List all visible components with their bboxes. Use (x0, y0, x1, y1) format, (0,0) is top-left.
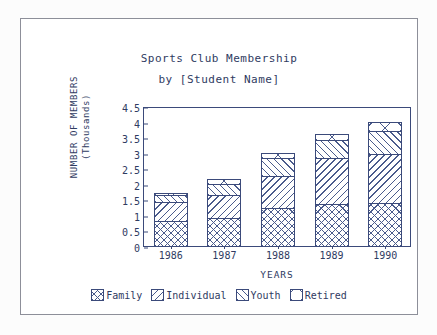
x-axis-tick-mark (332, 246, 333, 249)
x-axis-tick-mark (171, 246, 172, 249)
bar-segment-individual (368, 154, 402, 204)
bar-segment-family (368, 203, 402, 247)
bar-segment-family (154, 221, 188, 247)
x-axis-tick-label: 1987 (212, 250, 236, 261)
legend-item-individual[interactable]: Individual (151, 289, 226, 301)
y-axis-tick-mark (144, 216, 148, 217)
legend-swatch-youth-icon (236, 289, 249, 301)
bar-segment-individual (261, 176, 295, 209)
y-axis-tick-label: 4.5 (122, 103, 140, 114)
bar-1986 (154, 193, 188, 246)
bar-1990 (368, 122, 402, 246)
y-axis-tick-label: 3 (134, 149, 140, 160)
x-axis-tick-label: 1989 (320, 250, 344, 261)
y-axis-tick-mark (144, 154, 148, 155)
bar-segment-family (207, 218, 241, 247)
y-axis-title-line1: NUMBER OF MEMBERS (68, 76, 80, 178)
bar-segment-family (315, 204, 349, 247)
x-axis-tick-mark (385, 246, 386, 249)
y-axis-tick-mark (144, 248, 148, 249)
legend-item-youth[interactable]: Youth (236, 289, 281, 301)
y-axis-tick-label: 2.5 (122, 165, 140, 176)
bar-segment-individual (154, 202, 188, 221)
legend-label: Retired (305, 290, 347, 301)
x-axis-tick-label: 1988 (266, 250, 290, 261)
y-axis-title: NUMBER OF MEMBERS (Thousands) (67, 57, 93, 197)
bar-segment-family (261, 208, 295, 248)
legend-item-family[interactable]: Family (91, 289, 142, 301)
y-axis-tick-label: 3.5 (122, 134, 140, 145)
y-axis-tick-mark (144, 201, 148, 202)
y-axis-tick-label: 0 (134, 243, 140, 254)
y-axis-tick-label: 1.5 (122, 196, 140, 207)
plot-area: 00.511.522.533.544.5 1986198719881989199… (143, 107, 411, 247)
bar-1987 (207, 179, 241, 246)
legend-swatch-family-icon (91, 289, 104, 301)
y-axis-tick-label: 4 (134, 118, 140, 129)
legend-swatch-retired-icon (290, 289, 303, 301)
y-axis-tick-mark (144, 108, 148, 109)
legend-item-retired[interactable]: Retired (290, 289, 347, 301)
chart-page: Sports Club Membership by [Student Name]… (0, 0, 437, 335)
legend-swatch-individual-icon (151, 289, 164, 301)
x-axis-tick-label: 1986 (159, 250, 183, 261)
bar-segment-youth (261, 158, 295, 177)
legend-label: Family (106, 290, 142, 301)
bar-segment-individual (315, 158, 349, 205)
bar-segment-youth (368, 131, 402, 154)
y-axis-tick-mark (144, 185, 148, 186)
x-axis-title: YEARS (143, 269, 411, 280)
y-axis-tick-mark (144, 123, 148, 124)
x-axis-tick-mark (224, 246, 225, 249)
x-axis-tick-mark (278, 246, 279, 249)
y-axis-tick-label: 1 (134, 211, 140, 222)
legend-label: Youth (251, 290, 281, 301)
y-axis-tick-label: 0.5 (122, 227, 140, 238)
y-axis-tick-label: 2 (134, 180, 140, 191)
bar-1989 (315, 134, 349, 246)
y-axis-tick-mark (144, 170, 148, 171)
legend-label: Individual (166, 290, 226, 301)
x-axis-tick-label: 1990 (373, 250, 397, 261)
bar-segment-youth (315, 140, 349, 160)
bar-1988 (261, 153, 295, 246)
y-axis-tick-mark (144, 139, 148, 140)
chart-frame: Sports Club Membership by [Student Name]… (20, 18, 418, 315)
chart-legend: FamilyIndividualYouthRetired (21, 289, 417, 301)
y-axis-title-line2: (Thousands) (80, 94, 92, 160)
bar-segment-individual (207, 195, 241, 219)
y-axis-tick-mark (144, 232, 148, 233)
